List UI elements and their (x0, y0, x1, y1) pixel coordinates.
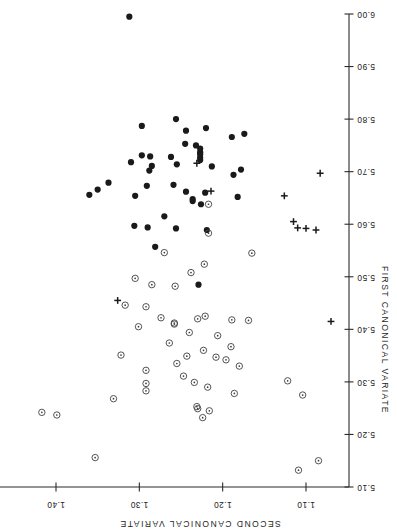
plot-canvas: 5.105.205.305.405.505.605.705.805.906.00… (0, 0, 397, 530)
data-point-open-circle-center (287, 380, 289, 382)
data-point-open-circle-center (151, 284, 153, 286)
data-point-filled-circle (145, 224, 151, 230)
data-point-open-circle-center (113, 398, 115, 400)
data-point-filled-circle (230, 172, 236, 178)
data-point-filled-circle (197, 157, 203, 163)
data-point-filled-circle (235, 194, 241, 200)
data-point-open-circle-center (94, 457, 96, 459)
data-point-open-circle-center (230, 346, 232, 348)
data-point-open-circle-center (173, 323, 175, 325)
data-point-open-circle-center (190, 272, 192, 274)
data-point-open-circle-center (160, 317, 162, 319)
data-point-open-circle-center (188, 332, 190, 334)
data-point-filled-circle (147, 153, 153, 159)
x-axis-tick-label: 5.60 (357, 220, 375, 230)
data-point-filled-circle (132, 193, 138, 199)
data-point-plus (281, 192, 288, 199)
data-point-open-circle-center (233, 393, 235, 395)
data-point-open-circle-center (203, 350, 205, 352)
data-point-open-circle-center (176, 363, 178, 365)
data-point-open-circle-center (186, 355, 188, 357)
data-point-open-circle-center (145, 306, 147, 308)
data-point-filled-circle (170, 182, 176, 188)
data-point-open-circle-center (204, 315, 206, 317)
data-point-filled-circle (174, 161, 180, 167)
data-point-plus (303, 225, 310, 232)
y-axis-tick-label: 1.40 (47, 500, 65, 510)
y-axis-tick-label: 1.20 (214, 500, 232, 510)
data-point-filled-circle (161, 213, 167, 219)
axes-layer (0, 14, 354, 492)
data-point-open-circle-center (163, 252, 165, 254)
data-point-open-circle-center (208, 203, 210, 205)
data-point-filled-circle (198, 201, 204, 207)
data-point-filled-circle (126, 14, 132, 20)
data-point-filled-circle (203, 125, 209, 131)
data-point-open-circle-center (215, 356, 217, 358)
data-point-filled-circle (202, 190, 208, 196)
data-point-open-circle-center (225, 359, 227, 361)
x-axis-tick-label: 5.20 (357, 430, 375, 440)
data-point-filled-circle (168, 154, 174, 160)
data-point-open-circle-center (248, 320, 250, 322)
data-point-plus (208, 188, 215, 195)
x-axis-tick-label: 6.00 (357, 10, 375, 20)
scatter-plot-figure: 5.105.205.305.405.505.605.705.805.906.00… (0, 0, 397, 530)
data-point-filled-circle (152, 244, 158, 250)
x-axis-tick-label: 5.10 (357, 483, 375, 493)
data-point-filled-circle (241, 131, 247, 137)
data-point-filled-circle (190, 198, 196, 204)
data-point-filled-circle (182, 141, 188, 147)
data-point-open-circle-center (41, 412, 43, 414)
data-point-filled-circle (146, 168, 152, 174)
data-point-open-circle-center (318, 460, 320, 462)
data-point-filled-circle (131, 223, 137, 229)
data-point-plus (290, 218, 297, 225)
x-axis-tick-label: 5.70 (357, 167, 375, 177)
data-point-filled-circle (139, 123, 145, 129)
data-point-open-circle-center (302, 394, 304, 396)
data-point-filled-circle (209, 163, 215, 169)
data-point-filled-circle (183, 128, 189, 134)
data-point-filled-circle (144, 183, 150, 189)
data-point-open-circle-center (145, 390, 147, 392)
data-point-open-circle-center (145, 383, 147, 385)
data-point-filled-circle (128, 159, 134, 165)
data-point-plus (313, 227, 320, 234)
data-point-open-circle-center (197, 408, 199, 410)
data-point-filled-circle (173, 116, 179, 122)
x-axis-tick-label: 5.40 (357, 325, 375, 335)
data-point-plus (294, 225, 301, 232)
data-point-open-circle-center (298, 469, 300, 471)
data-point-filled-circle (86, 192, 92, 198)
data-point-filled-circle (139, 152, 145, 158)
data-point-open-circle-center (138, 326, 140, 328)
data-point-open-circle-center (208, 232, 210, 234)
data-point-open-circle-center (208, 410, 210, 412)
data-point-open-circle-center (217, 335, 219, 337)
data-point-open-circle-center (56, 414, 58, 416)
data-point-filled-circle (105, 180, 111, 186)
data-point-filled-circle (229, 134, 235, 140)
data-point-open-circle-center (251, 252, 253, 254)
data-point-open-circle-center (145, 369, 147, 371)
data-point-filled-circle (195, 282, 201, 288)
data-point-open-circle-center (120, 354, 122, 356)
x-axis-tick-label: 5.50 (357, 273, 375, 283)
x-axis-title: FIRST CANONICAL VARIATE (380, 266, 390, 414)
data-point-open-circle-center (202, 417, 204, 419)
x-axis-tick-label: 5.90 (357, 62, 375, 72)
data-point-open-circle-center (124, 304, 126, 306)
data-point-plus (328, 318, 335, 325)
y-axis-tick-label: 1.10 (297, 500, 315, 510)
data-point-open-circle-center (134, 278, 136, 280)
data-point-filled-circle (183, 189, 189, 195)
data-point-filled-circle (238, 166, 244, 172)
data-point-open-circle-center (168, 342, 170, 344)
data-point-open-circle-center (183, 375, 185, 377)
y-axis-tick-label: 1.30 (130, 500, 148, 510)
axis-labels-layer: 5.105.205.305.405.505.605.705.805.906.00… (47, 10, 390, 529)
data-point-open-circle-center (174, 285, 176, 287)
data-point-open-circle-center (238, 365, 240, 367)
data-point-open-circle-center (193, 382, 195, 384)
